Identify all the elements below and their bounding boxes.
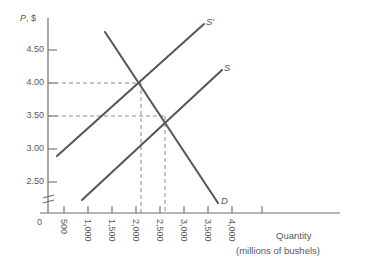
x-tick-label-500: 500 [59, 219, 68, 234]
curve-label-demand: D [221, 196, 228, 206]
origin-label: 0 [37, 218, 42, 227]
x-axis-title-sub: (millions of bushels) [236, 246, 320, 256]
curve-label-supply-shifted: S' [206, 17, 214, 27]
y-tick-label-300: 3.00 [14, 144, 44, 153]
x-tick-label-3500: 3,500 [203, 219, 212, 242]
curve-supply [82, 70, 222, 200]
x-tick-label-4000: 4,000 [227, 219, 236, 242]
y-tick-label-250: 2.50 [14, 177, 44, 186]
x-axis-title: Quantity [276, 231, 311, 241]
x-tick-label-1000: 1,000 [83, 219, 92, 242]
supply-demand-chart: P, $ 4.50 4.00 3.50 3.00 2.50 0 500 1,00… [0, 0, 366, 270]
y-tick-label-450: 4.50 [14, 45, 44, 54]
y-axis-title: P, $ [20, 14, 36, 23]
x-tick-label-1500: 1,500 [107, 219, 116, 242]
x-tick-marks [64, 206, 262, 213]
curve-label-supply: S [224, 63, 230, 73]
y-axis-title-unit: , $ [26, 13, 36, 23]
y-tick-label-400: 4.00 [14, 78, 44, 87]
curve-demand [105, 32, 218, 203]
x-tick-label-2000: 2,000 [131, 219, 140, 242]
curve-supply-shifted [57, 24, 204, 156]
x-tick-label-2500: 2,500 [155, 219, 164, 242]
x-tick-label-3000: 3,000 [179, 219, 188, 242]
y-tick-label-350: 3.50 [14, 111, 44, 120]
